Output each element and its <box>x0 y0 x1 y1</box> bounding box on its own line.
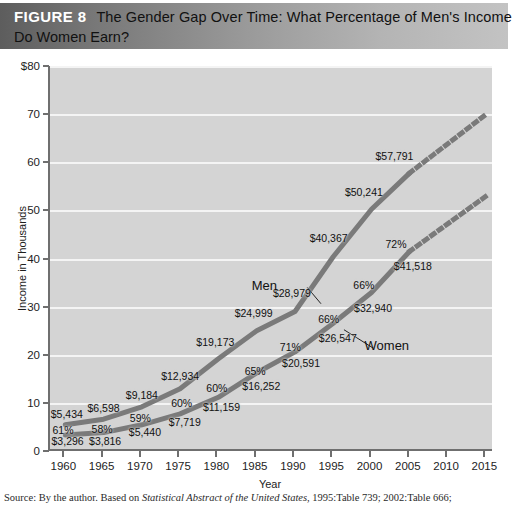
data-label-men-1965: $6,598 <box>88 402 120 414</box>
ratio-label-1990: 71% <box>280 341 301 353</box>
x-tick-mark <box>369 451 371 457</box>
x-tick-label: 2005 <box>395 460 421 472</box>
x-tick-mark <box>215 451 217 457</box>
series-annotation-men: Men <box>252 277 277 292</box>
series-projection-men <box>410 114 487 173</box>
data-label-men-1985: $24,999 <box>235 307 273 319</box>
figure-title-line-1: FIGURE 8The Gender Gap Over Time: What P… <box>14 7 498 27</box>
data-label-women-1980: $11,159 <box>203 401 240 413</box>
source-suffix: , 1995:Table 739; 2002:Table 666; <box>307 492 452 503</box>
ratio-label-1985: 65% <box>245 365 266 377</box>
source-prefix: Source: By the author. Based on <box>4 492 142 503</box>
x-tick-label: 1965 <box>89 460 115 472</box>
data-label-men-1990: $28,979 <box>273 287 311 299</box>
figure-number-label: FIGURE 8 <box>14 8 86 25</box>
series-annotation-women: Women <box>365 338 410 353</box>
figure-title-text-1: The Gender Gap Over Time: What Percentag… <box>96 9 511 25</box>
data-label-women-1975: $7,719 <box>169 416 201 428</box>
x-tick-label: 2015 <box>472 460 498 472</box>
data-label-women-1985: $16,252 <box>242 380 280 392</box>
x-tick-label: 1990 <box>280 460 306 472</box>
x-tick-label: 1975 <box>165 460 191 472</box>
data-label-men-2000: $50,241 <box>345 186 383 198</box>
y-tick-label: $80 <box>0 60 40 72</box>
ratio-label-1995: 66% <box>318 313 339 325</box>
source-note: Source: By the author. Based on Statisti… <box>4 492 508 503</box>
y-tick-label: 70 <box>0 108 40 120</box>
figure-title-line-2: Do Women Earn? <box>14 27 498 47</box>
data-label-men-1980: $19,173 <box>196 336 234 348</box>
x-tick-mark <box>407 451 409 457</box>
data-label-men-1970: $9,184 <box>126 389 158 401</box>
y-tick-label: 40 <box>0 253 40 265</box>
y-tick-label: 50 <box>0 204 40 216</box>
ratio-label-2005: 72% <box>385 238 406 250</box>
data-label-women-1960: $3,296 <box>52 435 84 447</box>
x-tick-label: 2010 <box>433 460 459 472</box>
x-tick-label: 2000 <box>357 460 383 472</box>
plot-inner: $5,434$6,598$9,184$12,934$19,173$24,999$… <box>50 66 492 449</box>
data-label-women-2000: $32,940 <box>354 302 392 314</box>
data-label-women-1970: $5,440 <box>129 426 161 438</box>
x-tick-label: 1980 <box>204 460 230 472</box>
x-tick-mark <box>445 451 447 457</box>
ratio-label-1975: 60% <box>171 397 192 409</box>
data-label-men-1995: $40,367 <box>310 232 348 244</box>
x-axis-title: Year <box>259 478 281 490</box>
ratio-label-1970: 59% <box>130 412 151 424</box>
x-tick-mark <box>292 451 294 457</box>
x-tick-mark <box>62 451 64 457</box>
data-label-men-1975: $12,934 <box>161 370 199 382</box>
ratio-label-2000: 66% <box>353 279 374 291</box>
x-tick-mark <box>330 451 332 457</box>
x-tick-label: 1995 <box>318 460 344 472</box>
y-tick-label: 0 <box>0 445 40 457</box>
x-tick-mark <box>483 451 485 457</box>
x-tick-mark <box>254 451 256 457</box>
series-projection-women <box>410 196 487 251</box>
data-label-men-2005: $57,791 <box>375 150 413 162</box>
data-label-women-1995: $26,547 <box>319 332 357 344</box>
data-label-women-1990: $20,591 <box>282 357 320 369</box>
figure-title-text-2: Do Women Earn? <box>14 29 129 45</box>
ratio-label-1980: 60% <box>206 382 227 394</box>
source-italic-title: Statistical Abstract of the United State… <box>142 492 307 503</box>
x-tick-mark <box>101 451 103 457</box>
y-tick-label: 10 <box>0 397 40 409</box>
x-tick-mark <box>139 451 141 457</box>
x-tick-label: 1985 <box>242 460 268 472</box>
plot-area: $5,434$6,598$9,184$12,934$19,173$24,999$… <box>48 66 492 451</box>
data-label-women-1965: $3,816 <box>89 435 121 447</box>
x-tick-mark <box>177 451 179 457</box>
data-label-women-2005: $41,518 <box>394 260 432 272</box>
x-tick-label: 1970 <box>127 460 153 472</box>
x-tick-label: 1960 <box>51 460 77 472</box>
data-label-men-1960: $5,434 <box>51 408 83 420</box>
y-tick-label: 60 <box>0 156 40 168</box>
ratio-label-1965: 58% <box>92 423 113 435</box>
y-tick-label: 30 <box>0 301 40 313</box>
ratio-label-1960: 61% <box>52 424 73 436</box>
figure-header-banner: FIGURE 8The Gender Gap Over Time: What P… <box>0 3 508 49</box>
y-tick-label: 20 <box>0 349 40 361</box>
series-lines <box>50 66 492 449</box>
